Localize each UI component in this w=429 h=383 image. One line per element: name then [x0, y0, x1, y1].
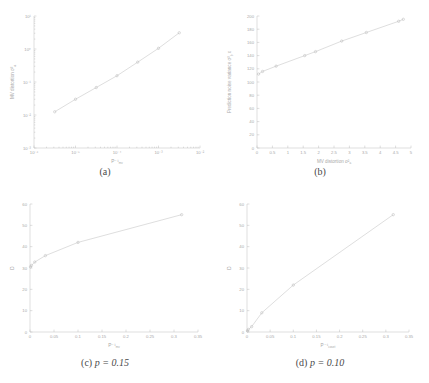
x-tick-label: 10⁻⁵: [71, 150, 80, 155]
caption-c-prefix: (c): [81, 357, 92, 368]
caption-a: (a): [60, 166, 150, 177]
data-series-line: [259, 19, 404, 74]
caption-b: (b): [275, 166, 365, 177]
caption-c: (c) p = 0.15: [40, 357, 170, 368]
y-axis-label: D: [10, 266, 15, 270]
figure-container: 10⁻⁶10⁻⁵10⁻⁴10⁻³10⁻²10⁻³10⁻²10⁻¹10⁰10¹P⁻…: [0, 0, 429, 383]
x-tick-label: 0.15: [98, 334, 107, 339]
y-tick-label: 20: [239, 287, 244, 292]
x-tick-label: 0: [29, 334, 32, 339]
x-tick-label: 10⁻²: [196, 150, 205, 155]
x-tick-label: 0: [256, 150, 259, 155]
data-series-line: [30, 215, 181, 267]
x-tick-label: 3: [348, 150, 351, 155]
y-tick-label: 40: [22, 244, 27, 249]
y-tick-label: 30: [22, 266, 27, 271]
y-tick-label: 20: [249, 132, 254, 137]
x-tick-label: 10⁻⁴: [113, 150, 122, 155]
x-tick-label: 0.1: [75, 334, 81, 339]
y-tick-label: 80: [249, 93, 254, 98]
x-tick-label: 4: [379, 150, 382, 155]
x-tick-label: 4.5: [393, 150, 399, 155]
x-tick-label: 3.5: [362, 150, 368, 155]
x-tick-label: 0: [246, 334, 249, 339]
x-tick-label: 5: [410, 150, 413, 155]
y-tick-label: 0: [252, 146, 255, 151]
y-tick-label: 10⁻³: [23, 146, 32, 151]
y-tick-label: 100: [247, 80, 255, 85]
subplot-a-plot: 10⁻⁶10⁻⁵10⁻⁴10⁻³10⁻²10⁻³10⁻²10⁻¹10⁰10¹P⁻…: [0, 0, 215, 165]
x-tick-label: 1: [287, 150, 290, 155]
x-axis-label: P⁻¹mv: [111, 159, 123, 166]
data-point: [257, 73, 259, 75]
y-tick-label: 10¹: [25, 14, 32, 19]
y-tick-label: 10⁰: [24, 47, 31, 52]
y-tick-label: 120: [247, 66, 255, 71]
caption-d: (d) p = 0.10: [255, 357, 385, 368]
y-tick-label: 50: [239, 223, 244, 228]
y-axis-label: Prediction noise variance σ²b x: [227, 50, 234, 113]
y-axis-label: D: [227, 266, 232, 270]
y-tick-label: 0: [242, 330, 245, 335]
x-tick-label: 0.05: [50, 334, 59, 339]
subplot-d-plot: 00.050.10.150.20.250.30.350102030405060P…: [215, 190, 429, 355]
x-tick-label: 0.5: [269, 150, 275, 155]
x-tick-label: 2.5: [331, 150, 337, 155]
y-tick-label: 50: [22, 223, 27, 228]
x-tick-label: 1.5: [300, 150, 306, 155]
caption-d-expression: p = 0.10: [310, 357, 344, 368]
caption-d-prefix: (d): [296, 357, 308, 368]
y-tick-label: 60: [249, 106, 254, 111]
x-tick-label: 0.15: [312, 334, 321, 339]
subplot-b-plot: 00.511.522.533.544.550204060801001201401…: [215, 0, 429, 165]
subplot-b: 00.511.522.533.544.550204060801001201401…: [215, 0, 429, 165]
x-tick-label: 10⁻³: [154, 150, 163, 155]
caption-b-text: (b): [314, 166, 326, 177]
x-tick-label: 0.35: [405, 334, 414, 339]
x-tick-label: 0.1: [290, 334, 296, 339]
x-tick-label: 0.2: [123, 334, 129, 339]
y-tick-label: 30: [239, 266, 244, 271]
y-tick-label: 10: [22, 308, 27, 313]
x-tick-label: 0.2: [337, 334, 343, 339]
subplot-a: 10⁻⁶10⁻⁵10⁻⁴10⁻³10⁻²10⁻³10⁻²10⁻¹10⁰10¹P⁻…: [0, 0, 215, 165]
x-tick-label: 2: [317, 150, 320, 155]
y-tick-label: 60: [22, 202, 27, 207]
x-axis-label: P⁻¹mv: [108, 343, 120, 350]
y-tick-label: 140: [247, 53, 255, 58]
x-axis-label: MV distortion σ²a: [317, 159, 351, 166]
x-tick-label: 0.05: [266, 334, 275, 339]
y-axis-label: MV distortion σ²a: [10, 65, 17, 99]
y-tick-label: 180: [247, 27, 255, 32]
caption-c-expression: p = 0.15: [95, 357, 129, 368]
data-point: [392, 213, 394, 215]
caption-a-text: (a): [99, 166, 110, 177]
x-tick-label: 0.25: [359, 334, 368, 339]
x-axis-label: P⁻¹coset: [321, 343, 336, 350]
x-tick-label: 10⁻⁶: [30, 150, 39, 155]
y-tick-label: 60: [239, 202, 244, 207]
y-tick-label: 10: [239, 308, 244, 313]
y-tick-label: 40: [239, 244, 244, 249]
y-tick-label: 0: [25, 330, 28, 335]
y-tick-label: 200: [247, 14, 255, 19]
subplot-d: 00.050.10.150.20.250.30.350102030405060P…: [215, 190, 429, 355]
y-tick-label: 20: [22, 287, 27, 292]
data-series-line: [247, 215, 393, 331]
x-tick-label: 0.3: [383, 334, 389, 339]
y-tick-label: 10⁻¹: [23, 80, 32, 85]
subplot-c: 00.050.10.150.20.250.30.350102030405060P…: [0, 190, 215, 355]
y-tick-label: 10⁻²: [23, 113, 32, 118]
x-tick-label: 0.25: [146, 334, 155, 339]
x-tick-label: 0.35: [194, 334, 203, 339]
x-tick-label: 0.3: [171, 334, 177, 339]
subplot-c-plot: 00.050.10.150.20.250.30.350102030405060P…: [0, 190, 215, 355]
y-tick-label: 160: [247, 40, 255, 45]
data-series-line: [55, 33, 180, 112]
y-tick-label: 40: [249, 119, 254, 124]
